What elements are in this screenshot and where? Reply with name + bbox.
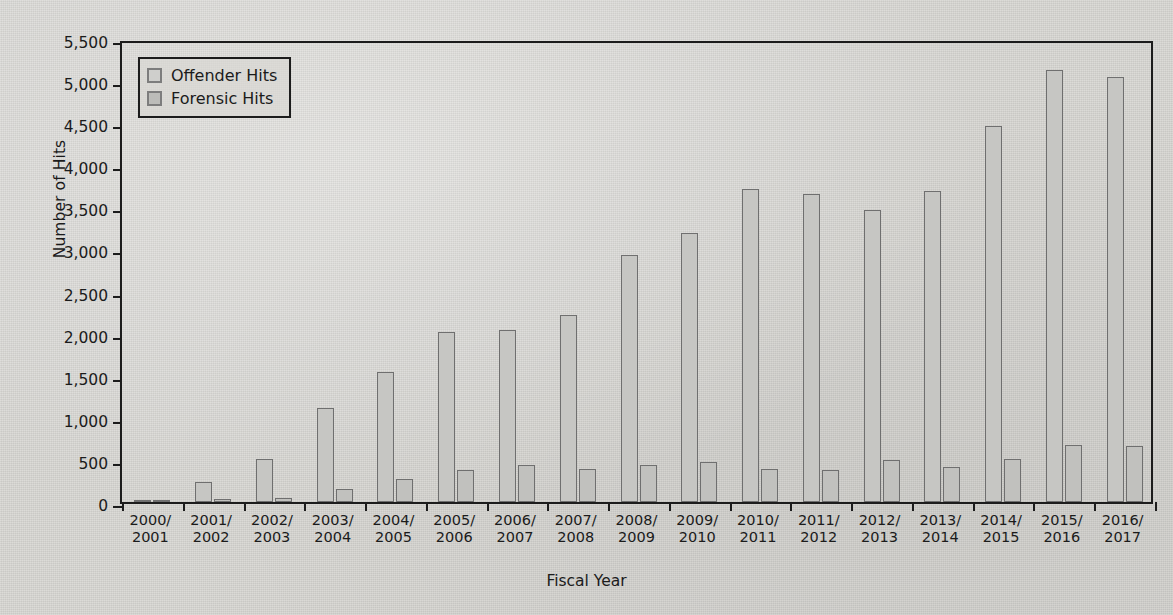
y-tick-mark (113, 464, 122, 466)
x-tick-label: 2006/2007 (485, 512, 546, 546)
bar-forensic-hits (579, 469, 596, 502)
bar-forensic-hits (1126, 446, 1143, 502)
bar-offender-hits (924, 191, 941, 502)
x-tick-mark (1094, 502, 1096, 511)
x-tick-mark (973, 502, 975, 511)
bar-forensic-hits (883, 460, 900, 502)
x-tick-label: 2001/2002 (181, 512, 242, 546)
x-tick-mark (304, 502, 306, 511)
bar-offender-hits (134, 500, 151, 502)
y-tick-mark (113, 338, 122, 340)
bar-forensic-hits (457, 470, 474, 502)
bar-offender-hits (317, 408, 334, 502)
x-tick-mark (608, 502, 610, 511)
bar-forensic-hits (822, 470, 839, 502)
bar-offender-hits (499, 330, 516, 502)
bar-offender-hits (803, 194, 820, 502)
x-tick-mark (122, 502, 124, 511)
legend-swatch-icon-offender (147, 68, 162, 83)
x-tick-mark (487, 502, 489, 511)
chart-legend: Offender Hits Forensic Hits (138, 57, 291, 118)
y-tick-mark (113, 506, 122, 508)
x-tick-mark (365, 502, 367, 511)
x-tick-label: 2015/2016 (1031, 512, 1092, 546)
bar-offender-hits (438, 332, 455, 502)
x-tick-label: 2013/2014 (910, 512, 971, 546)
y-tick-label: 0 (98, 497, 108, 515)
y-tick-label: 1,500 (64, 371, 108, 389)
bar-forensic-hits (396, 479, 413, 502)
legend-label-forensic: Forensic Hits (171, 89, 273, 108)
x-tick-label: 2010/2011 (728, 512, 789, 546)
x-tick-mark (547, 502, 549, 511)
legend-item-forensic-hits: Forensic Hits (147, 87, 277, 110)
y-tick-mark (113, 296, 122, 298)
bar-forensic-hits (153, 500, 170, 502)
x-tick-label: 2003/2004 (302, 512, 363, 546)
bar-offender-hits (681, 233, 698, 502)
bar-forensic-hits (1004, 459, 1021, 502)
bar-forensic-hits (700, 462, 717, 502)
bar-offender-hits (1046, 70, 1063, 502)
x-axis-title: Fiscal Year (0, 572, 1173, 590)
x-tick-mark (851, 502, 853, 511)
x-tick-label: 2005/2006 (424, 512, 485, 546)
x-tick-mark (730, 502, 732, 511)
x-tick-label: 2002/2003 (242, 512, 303, 546)
bar-forensic-hits (761, 469, 778, 502)
x-tick-label: 2014/2015 (971, 512, 1032, 546)
y-tick-label: 5,500 (64, 34, 108, 52)
bar-offender-hits (985, 126, 1002, 502)
y-tick-label: 2,000 (64, 329, 108, 347)
x-tick-label: 2008/2009 (606, 512, 667, 546)
y-tick-mark (113, 169, 122, 171)
y-tick-mark (113, 43, 122, 45)
bar-forensic-hits (640, 465, 657, 502)
y-tick-mark (113, 380, 122, 382)
x-tick-label: 2012/2013 (849, 512, 910, 546)
y-tick-label: 5,000 (64, 76, 108, 94)
y-tick-label: 3,500 (64, 202, 108, 220)
legend-swatch-icon-forensic (147, 91, 162, 106)
bar-forensic-hits (1065, 445, 1082, 502)
y-tick-label: 2,500 (64, 287, 108, 305)
x-axis-tick-labels: 2000/20012001/20022002/20032003/20042004… (120, 512, 1153, 562)
bar-forensic-hits (275, 498, 292, 502)
bar-offender-hits (621, 255, 638, 502)
bar-offender-hits (864, 210, 881, 502)
y-tick-label: 3,000 (64, 244, 108, 262)
x-tick-label: 2016/2017 (1092, 512, 1153, 546)
bar-forensic-hits (943, 467, 960, 502)
y-tick-label: 500 (78, 455, 108, 473)
x-tick-mark (183, 502, 185, 511)
x-tick-mark (1033, 502, 1035, 511)
x-tick-label: 2004/2005 (363, 512, 424, 546)
y-tick-label: 4,500 (64, 118, 108, 136)
x-tick-label: 2007/2008 (545, 512, 606, 546)
bar-offender-hits (1107, 77, 1124, 502)
bar-offender-hits (377, 372, 394, 502)
legend-label-offender: Offender Hits (171, 66, 277, 85)
x-tick-mark (669, 502, 671, 511)
bar-offender-hits (195, 482, 212, 502)
x-tick-mark (790, 502, 792, 511)
y-tick-mark (113, 422, 122, 424)
bar-offender-hits (560, 315, 577, 502)
x-tick-mark (244, 502, 246, 511)
x-tick-mark (1155, 502, 1157, 511)
y-tick-mark (113, 127, 122, 129)
y-tick-mark (113, 253, 122, 255)
y-tick-label: 1,000 (64, 413, 108, 431)
x-tick-mark (912, 502, 914, 511)
legend-item-offender-hits: Offender Hits (147, 64, 277, 87)
y-tick-label: 4,000 (64, 160, 108, 178)
y-tick-mark (113, 85, 122, 87)
x-tick-label: 2009/2010 (667, 512, 728, 546)
bar-forensic-hits (336, 489, 353, 502)
bar-forensic-hits (214, 499, 231, 502)
x-tick-label: 2011/2012 (788, 512, 849, 546)
bar-offender-hits (256, 459, 273, 502)
x-tick-label: 2000/2001 (120, 512, 181, 546)
bar-offender-hits (742, 189, 759, 502)
y-tick-mark (113, 211, 122, 213)
